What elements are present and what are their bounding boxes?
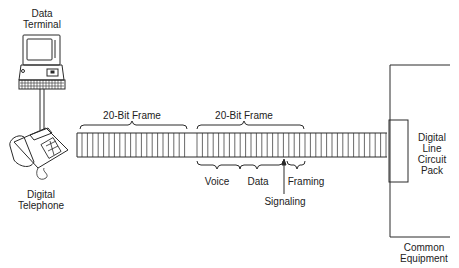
circuit-pack-box — [389, 120, 408, 182]
terminal-label-line1: Data — [20, 8, 64, 19]
common-equipment-label: Common Equipment — [396, 242, 452, 264]
data-brace — [240, 161, 283, 169]
data-label: Data — [244, 176, 272, 187]
framing-label: Framing — [286, 176, 326, 187]
common-equipment-line1: Common — [396, 242, 452, 253]
frame-brace-1 — [80, 121, 187, 129]
circuit-pack-line3: Circuit — [412, 154, 452, 165]
terminal-label: Data Terminal — [20, 8, 64, 30]
telephone-label-line1: Digital — [16, 189, 66, 200]
frame-label-1: 20-Bit Frame — [100, 110, 164, 121]
common-equipment-line2: Equipment — [396, 253, 452, 264]
desk-telephone-icon — [10, 128, 68, 179]
signaling-label: Signaling — [262, 196, 308, 207]
terminal-label-line2: Terminal — [20, 19, 64, 30]
circuit-pack-line2: Line — [412, 143, 452, 154]
diagram-canvas — [0, 0, 459, 268]
bit-stream-bus — [77, 133, 387, 157]
computer-terminal-icon — [19, 35, 65, 89]
framing-brace — [287, 161, 305, 169]
frame-brace-2 — [197, 121, 304, 129]
telephone-label: Digital Telephone — [16, 189, 66, 211]
circuit-pack-line4: Pack — [412, 165, 452, 176]
circuit-pack-label: Digital Line Circuit Pack — [412, 132, 452, 176]
telephone-label-line2: Telephone — [16, 200, 66, 211]
terminal-cord — [40, 89, 44, 130]
voice-label: Voice — [201, 176, 233, 187]
circuit-pack-line1: Digital — [412, 132, 452, 143]
frame-label-2: 20-Bit Frame — [212, 110, 276, 121]
voice-brace — [197, 161, 240, 169]
